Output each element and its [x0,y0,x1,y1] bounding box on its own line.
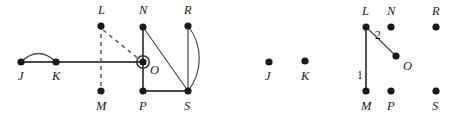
node-label-M: M [95,99,107,113]
node-label-N: N [386,4,396,18]
right-panel-nodes [265,23,439,94]
edge-weight-label-L-O: 2 [375,29,381,41]
right-panel-node-labels: J K L M N O P R S [265,4,440,113]
node-label-J: J [18,69,25,83]
right-panel-group: J K L M N O P R S 1 2 [265,4,440,113]
node-label-N: N [138,3,148,17]
node-M[interactable] [362,87,369,94]
node-K[interactable] [301,57,308,64]
graph-figure-svg: J K L M N O P R S [0,0,458,124]
edge-L-O-dashed [103,30,140,60]
node-M[interactable] [97,87,104,94]
edge-weight-label-L-M: 1 [357,69,363,81]
node-R[interactable] [432,23,439,30]
node-J[interactable] [265,58,272,65]
node-label-S: S [432,99,439,113]
node-label-O: O [150,63,159,77]
node-label-R: R [183,3,192,17]
node-L[interactable] [362,23,369,30]
node-label-L: L [361,4,369,18]
node-label-K: K [51,69,61,83]
node-O[interactable] [392,52,399,59]
node-label-P: P [138,99,147,113]
right-panel-weight-labels: 1 2 [357,29,381,81]
left-panel-group: J K L M N O P R S [17,3,199,113]
node-label-O: O [403,59,412,73]
node-label-J: J [265,69,272,83]
node-J[interactable] [17,58,24,65]
node-K[interactable] [52,58,59,65]
node-L[interactable] [97,22,104,29]
node-label-P: P [386,99,395,113]
node-P[interactable] [387,87,394,94]
node-label-S: S [184,99,191,113]
edge-R-S-curve [188,26,199,91]
node-O[interactable] [139,58,146,65]
node-label-R: R [431,4,440,18]
node-label-K: K [300,69,310,83]
node-S[interactable] [432,87,439,94]
left-panel-node-labels: J K L M N O P R S [18,3,192,113]
node-P[interactable] [139,87,146,94]
left-panel-edges [21,26,199,91]
node-label-L: L [97,3,105,17]
node-S[interactable] [184,87,191,94]
edge-J-K-curve [21,54,56,63]
right-panel-edges [366,27,396,91]
node-N[interactable] [139,23,146,30]
edge-L-O-weighted [366,27,396,56]
edge-N-S-diagonal [143,27,188,91]
graph-figure-container: J K L M N O P R S [0,0,458,124]
node-label-M: M [360,99,372,113]
node-R[interactable] [184,22,191,29]
node-N[interactable] [387,23,394,30]
